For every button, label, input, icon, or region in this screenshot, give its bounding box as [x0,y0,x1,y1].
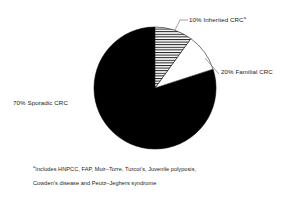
footnote-marker-inherited: a [244,15,246,20]
footnote-line-1: aIncludes HNPCC, FAP, Muir–Torre, Turcot… [33,166,196,172]
slice-label-sporadic: 70% Sporadic CRC [13,99,68,106]
leader-line-inherited [174,20,188,32]
pie-chart-figure: 10% Inherited CRCa 20% Familial CRC 70% … [0,0,290,201]
slice-label-inherited: 10% Inherited CRCa [189,16,246,23]
footnote-line-2: Cowden’s disease and Peutz–Jeghers syndr… [33,180,156,186]
slice-label-familial: 20% Familial CRC [221,68,273,75]
footnote-line-1-text: Includes HNPCC, FAP, Muir–Torre, Turcot’… [35,166,196,172]
slice-label-inherited-text: 10% Inherited CRC [189,16,244,23]
